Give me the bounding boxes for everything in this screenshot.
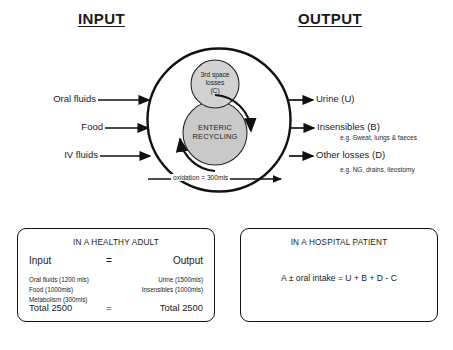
third-space-losses-label: 3rd space losses (C) xyxy=(185,71,245,94)
output-note-other-losses: e.g. NG, drains, ileostomy xyxy=(340,166,415,173)
list-item: Insensibles (1000mls) xyxy=(142,285,203,295)
list-item: Urine (1500mls) xyxy=(142,275,203,285)
healthy-output-list: Urine (1500mls) Insensibles (1000mls) xyxy=(142,275,203,295)
healthy-input-list: Oral fluids (1200 mls) Food (1000mls) Me… xyxy=(29,275,89,304)
input-label-oral-fluids: Oral fluids xyxy=(18,93,96,104)
healthy-total-equals: = xyxy=(106,302,111,313)
third-space-line3: (C) xyxy=(185,87,245,95)
healthy-panel-title: IN A HEALTHY ADULT xyxy=(18,238,214,247)
oxidation-label: oxidation = 300mls xyxy=(171,174,230,181)
enteric-line2: RECYCLING xyxy=(180,133,250,142)
input-label-iv-fluids: IV fluids xyxy=(20,149,98,160)
hospital-panel-title: IN A HOSPITAL PATIENT xyxy=(241,238,437,247)
enteric-recycling-label: ENTERIC RECYCLING xyxy=(180,124,250,141)
output-header: OUTPUT xyxy=(298,10,362,27)
healthy-input-heading: Input xyxy=(29,255,51,266)
third-space-line1: 3rd space xyxy=(185,71,245,79)
output-label-other-losses: Other losses (D) xyxy=(316,149,385,160)
third-space-line2: losses xyxy=(185,79,245,87)
healthy-adult-panel: IN A HEALTHY ADULT Input = Output Oral f… xyxy=(17,228,215,322)
list-item: Oral fluids (1200 mls) xyxy=(29,275,89,285)
input-label-food: Food xyxy=(25,121,103,132)
output-label-insensibles: Insensibles (B) xyxy=(317,121,380,132)
output-note-insensibles: e.g. Sweat, lungs & faeces xyxy=(340,134,417,141)
output-label-urine: Urine (U) xyxy=(316,93,355,104)
fluid-balance-formula: A ± oral intake = U + B + D - C xyxy=(241,273,437,283)
input-header: INPUT xyxy=(78,10,125,27)
healthy-equals-heading: = xyxy=(106,255,112,266)
healthy-total-output: Total 2500 xyxy=(160,302,203,313)
list-item: Food (1000mls) xyxy=(29,285,89,295)
healthy-total-input: Total 2500 xyxy=(29,302,72,313)
healthy-output-heading: Output xyxy=(173,255,203,266)
hospital-patient-panel: IN A HOSPITAL PATIENT A ± oral intake = … xyxy=(240,228,438,322)
